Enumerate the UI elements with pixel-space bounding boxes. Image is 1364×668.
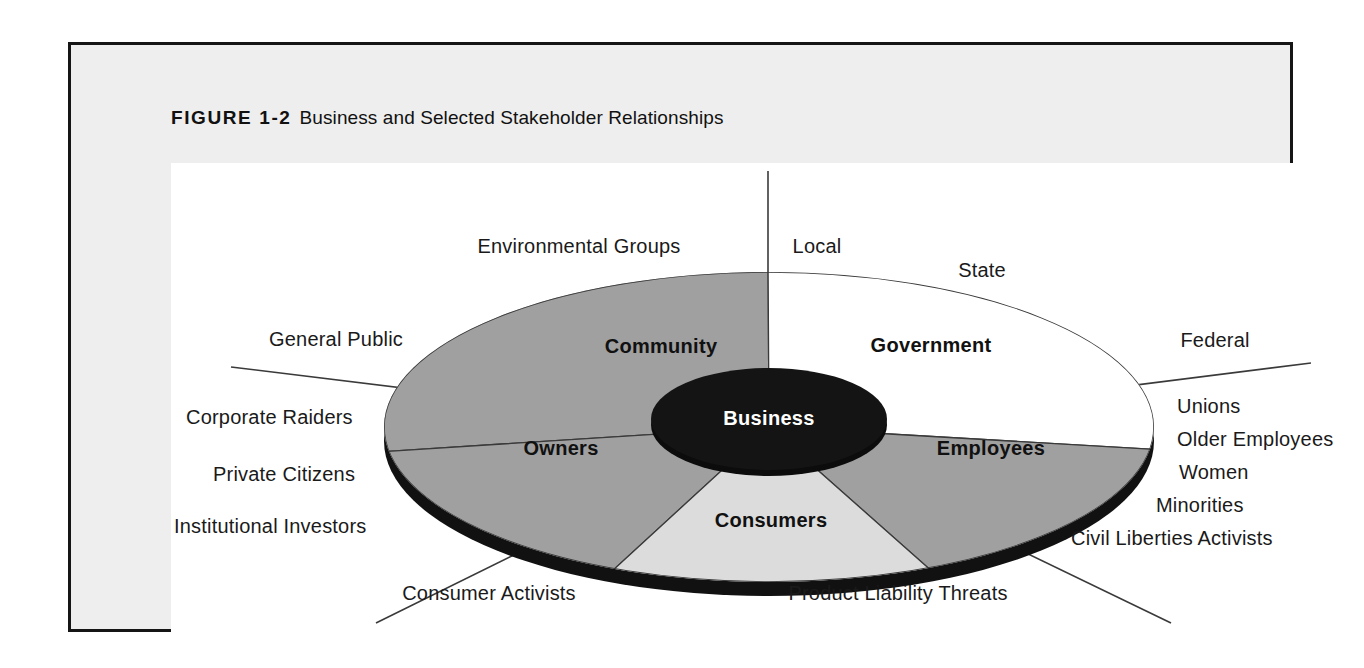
stakeholder-federal: Federal xyxy=(1180,329,1249,352)
wedge-label-owners: Owners xyxy=(523,437,598,460)
stakeholder-local: Local xyxy=(793,235,842,258)
wedge-label-employees: Employees xyxy=(937,437,1045,460)
stakeholder-women: Women xyxy=(1179,461,1249,484)
stakeholder-older-employees: Older Employees xyxy=(1177,428,1333,451)
figure-number: FIGURE 1-2 xyxy=(171,107,292,128)
stakeholder-institutional-investors: Institutional Investors xyxy=(174,515,366,538)
wedge-label-community: Community xyxy=(605,335,718,358)
stakeholder-corporate-raiders: Corporate Raiders xyxy=(186,406,353,429)
stakeholder-civil-liberties-activists: Civil Liberties Activists xyxy=(1071,527,1273,550)
wedge-label-government: Government xyxy=(871,334,992,357)
wedge-label-consumers: Consumers xyxy=(715,509,828,532)
stakeholder-environmental-groups: Environmental Groups xyxy=(478,235,681,258)
diagram-canvas: Community Government Employees Consumers… xyxy=(171,163,1336,640)
figure-caption: Business and Selected Stakeholder Relati… xyxy=(300,107,724,128)
figure-frame: FIGURE 1-2Business and Selected Stakehol… xyxy=(68,42,1293,632)
stakeholder-unions: Unions xyxy=(1177,395,1240,418)
stakeholder-product-liability-threats: Product Liability Threats xyxy=(788,582,1007,605)
stakeholder-diagram xyxy=(171,163,1336,640)
stakeholder-private-citizens: Private Citizens xyxy=(213,463,355,486)
stakeholder-general-public: General Public xyxy=(269,328,403,351)
stakeholder-state: State xyxy=(958,259,1006,282)
stakeholder-minorities: Minorities xyxy=(1156,494,1244,517)
figure-title: FIGURE 1-2Business and Selected Stakehol… xyxy=(171,107,724,129)
core-label: Business xyxy=(723,407,814,430)
figure-page: FIGURE 1-2Business and Selected Stakehol… xyxy=(0,0,1364,668)
stakeholder-consumer-activists: Consumer Activists xyxy=(402,582,576,605)
